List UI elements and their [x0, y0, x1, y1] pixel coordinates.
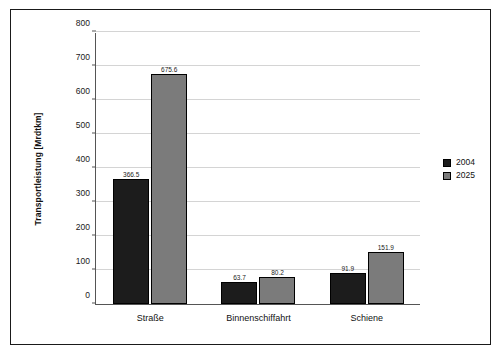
- legend-label: 2004: [456, 158, 475, 167]
- y-axis-tick-label: 600: [44, 86, 96, 96]
- bar-value-label: 91.9: [341, 265, 354, 272]
- bar-2004-Binnenschiffahrt: 63.7: [221, 282, 257, 304]
- y-axis-tick-label: 500: [44, 120, 96, 130]
- bar-value-label: 675.6: [161, 66, 177, 73]
- y-axis-tick-label: 800: [44, 18, 96, 28]
- bar-value-label: 366.5: [123, 171, 139, 178]
- bar-2025-Straße: 675.6: [151, 74, 187, 304]
- y-axis-tick-label: 200: [44, 222, 96, 232]
- y-axis-title-text: Transportleistung [Mrdtkm]: [33, 112, 43, 225]
- y-axis-tick-label: 700: [44, 52, 96, 62]
- chart-legend: 20042025: [443, 157, 475, 183]
- bar-value-label: 80.2: [271, 269, 284, 276]
- bar-group: 63.780.2Binnenschiffahrt: [204, 33, 312, 304]
- bar-wrapper: 151.9: [368, 32, 404, 304]
- bar-value-label: 151.9: [378, 244, 394, 251]
- legend-label: 2025: [456, 171, 475, 180]
- bar-2004-Straße: 366.5: [113, 179, 149, 304]
- x-axis-category-label: Binnenschiffahrt: [204, 313, 312, 323]
- y-axis-tick-label: 400: [44, 154, 96, 164]
- bar-2025-Schiene: 151.9: [368, 252, 404, 304]
- y-axis-tick-label: 0: [44, 290, 96, 300]
- legend-swatch: [443, 172, 451, 180]
- bar-group: 91.9151.9Schiene: [313, 33, 421, 304]
- chart-screenshot: Transportleistung [Mrdtkm] 0100200300400…: [0, 0, 502, 356]
- bar-2004-Schiene: 91.9: [330, 273, 366, 304]
- legend-item-2004: 2004: [443, 157, 475, 168]
- plot-area: 0100200300400500600700800 366.5675.6Stra…: [95, 33, 420, 305]
- bar-wrapper: 366.5: [113, 32, 149, 304]
- bars-layer: 366.5675.6Straße63.780.2Binnenschiffahrt…: [96, 33, 420, 304]
- y-axis-tick-mark: [92, 31, 96, 32]
- bar-2025-Binnenschiffahrt: 80.2: [259, 277, 295, 304]
- y-axis-title: Transportleistung [Mrdtkm]: [31, 33, 45, 305]
- y-axis-tick-label: 300: [44, 188, 96, 198]
- chart-frame: Transportleistung [Mrdtkm] 0100200300400…: [10, 9, 491, 345]
- legend-item-2025: 2025: [443, 170, 475, 181]
- bar-wrapper: 675.6: [151, 32, 187, 304]
- bar-value-label: 63.7: [233, 274, 246, 281]
- bar-wrapper: 91.9: [330, 32, 366, 304]
- bar-wrapper: 63.7: [221, 32, 257, 304]
- bar-group: 366.5675.6Straße: [96, 33, 204, 304]
- x-axis-category-label: Straße: [96, 313, 204, 323]
- y-axis-tick-label: 100: [44, 256, 96, 266]
- bar-wrapper: 80.2: [259, 32, 295, 304]
- legend-swatch: [443, 159, 451, 167]
- x-axis-category-label: Schiene: [313, 313, 421, 323]
